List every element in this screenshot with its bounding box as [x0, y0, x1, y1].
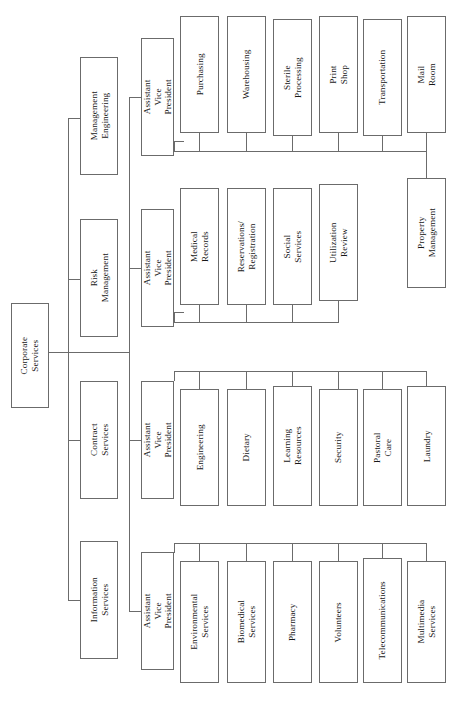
- node-label: Security: [333, 432, 344, 463]
- node-laundry[interactable]: Laundry: [407, 386, 446, 506]
- connector-root-to-avp-stub: [68, 352, 129, 353]
- node-label: Volunteers: [333, 602, 344, 642]
- connector-group2-leaf-stub-3: [292, 305, 293, 323]
- node-dietary[interactable]: Dietary: [227, 389, 266, 506]
- connector-group3-leaf-stub-5: [382, 371, 383, 389]
- node-label: Dietary: [241, 433, 252, 461]
- node-label: Telecommunications: [377, 581, 388, 659]
- connector-group2-leaf-stub-1: [199, 305, 200, 323]
- node-learning-resources[interactable]: Learning Resources: [273, 386, 312, 506]
- node-assistant-vice-president-2[interactable]: Assistant Vice President: [141, 209, 174, 327]
- node-assistant-vice-president-1[interactable]: Assistant Vice President: [141, 38, 174, 156]
- connector-group4-leaf-stub-1: [199, 543, 200, 561]
- node-label: Utilization Review: [328, 222, 349, 262]
- connector-group2-leaf-stub-2: [246, 305, 247, 323]
- connector-group4-leaf-stub-5: [382, 543, 383, 558]
- node-assistant-vice-president-4[interactable]: Assistant Vice President: [141, 552, 174, 670]
- connector-group1-leaf-stub-3: [292, 136, 293, 152]
- connector-tier2-bus: [68, 118, 69, 600]
- node-label: Purchasing: [194, 54, 205, 96]
- node-label: Engineering: [194, 424, 205, 470]
- node-label: Management Engineering: [88, 92, 109, 141]
- node-pastoral-care[interactable]: Pastoral Care: [363, 389, 402, 506]
- connector-avp-stub-3: [129, 440, 141, 441]
- node-label: Corporate Services: [19, 337, 40, 375]
- node-security[interactable]: Security: [319, 389, 358, 506]
- connector-group4-leaf-stub-2: [246, 543, 247, 561]
- connector-group1-avp-out: [174, 141, 184, 142]
- node-reservations-registration[interactable]: Reservations/ Registration: [227, 188, 266, 305]
- connector-group4-leaf-stub-4: [338, 543, 339, 561]
- node-label: Transportation: [377, 50, 388, 105]
- node-label: Risk Management: [88, 254, 109, 303]
- node-information-services[interactable]: Information Services: [80, 541, 118, 659]
- connector-avp-bus: [129, 97, 130, 611]
- connector-group3-leaf-stub-3: [292, 371, 293, 386]
- node-label: Property Management: [416, 209, 437, 258]
- node-label: Social Services: [282, 228, 303, 265]
- node-medical-records[interactable]: Medical Records: [180, 188, 219, 305]
- connector-group1-leaf-stub-2: [246, 133, 247, 152]
- connector-group4-riser: [174, 543, 175, 553]
- connector-group4-leaf-stub-6: [426, 543, 427, 561]
- node-label: Environmental Services: [189, 594, 210, 650]
- node-environmental-services[interactable]: Environmental Services: [180, 561, 219, 683]
- node-assistant-vice-president-3[interactable]: Assistant Vice President: [141, 381, 174, 499]
- node-label: Warehousing: [241, 50, 252, 99]
- org-chart-canvas: Corporate Services Management Engineerin…: [0, 0, 463, 704]
- connector-avp-stub-2: [129, 268, 141, 269]
- node-label: Assistant Vice President: [141, 250, 173, 285]
- node-label: Medical Records: [189, 228, 210, 265]
- node-label: Pastoral Care: [372, 429, 393, 466]
- node-telecommunications[interactable]: Telecommunications: [363, 558, 402, 683]
- node-label: Print Shop: [328, 56, 349, 93]
- node-transportation[interactable]: Transportation: [363, 19, 402, 136]
- connector-property-management-drop: [426, 151, 427, 178]
- connector-root-stub: [49, 352, 68, 353]
- connector-group3-leaf-stub-2: [246, 371, 247, 389]
- node-label: Assistant Vice President: [141, 593, 173, 628]
- node-corporate-services[interactable]: Corporate Services: [11, 303, 49, 408]
- connector-group2-avp-out: [174, 312, 184, 313]
- node-biomedical-services[interactable]: Biomedical Services: [227, 561, 266, 683]
- node-label: Information Services: [88, 578, 109, 623]
- node-warehousing[interactable]: Warehousing: [227, 16, 266, 133]
- node-property-management[interactable]: Property Management: [407, 178, 446, 288]
- node-social-services[interactable]: Social Services: [273, 188, 312, 305]
- connector-tier2-stub-4: [68, 600, 80, 601]
- node-label: Sterile Processing: [282, 57, 303, 98]
- node-label: Assistant Vice President: [141, 422, 173, 457]
- connector-group1-leaf-stub-6: [426, 133, 427, 152]
- node-label: Reservations/ Registration: [236, 221, 257, 272]
- node-label: Contract Services: [88, 424, 109, 456]
- node-engineering[interactable]: Engineering: [180, 389, 219, 506]
- node-contract-services[interactable]: Contract Services: [80, 381, 118, 499]
- connector-group4-leaf-stub-3: [292, 543, 293, 561]
- node-management-engineering[interactable]: Management Engineering: [80, 57, 118, 175]
- node-pharmacy[interactable]: Pharmacy: [273, 561, 312, 683]
- node-label: Learning Resources: [282, 427, 303, 466]
- node-print-shop[interactable]: Print Shop: [319, 16, 358, 133]
- node-label: Laundry: [421, 430, 432, 462]
- connector-group3-leaf-stub-6: [426, 371, 427, 386]
- node-label: Multimedia Services: [416, 600, 437, 644]
- connector-tier2-stub-2: [68, 279, 80, 280]
- node-risk-management[interactable]: Risk Management: [80, 219, 118, 337]
- node-label: Pharmacy: [287, 603, 298, 641]
- node-purchasing[interactable]: Purchasing: [180, 16, 219, 133]
- connector-tier2-stub-1: [68, 118, 80, 119]
- node-label: Biomedical Services: [236, 600, 257, 643]
- node-multimedia-services[interactable]: Multimedia Services: [407, 561, 446, 683]
- connector-group1-bus: [174, 151, 427, 152]
- node-utilization-review[interactable]: Utilization Review: [319, 184, 358, 301]
- connector-tier2-stub-3: [68, 440, 80, 441]
- node-label: Assistant Vice President: [141, 79, 173, 114]
- connector-group3-riser: [174, 371, 175, 381]
- connector-group2-leaf-stub-4: [338, 300, 339, 323]
- node-mail-room[interactable]: Mail Room: [407, 16, 446, 133]
- connector-avp-stub-1: [129, 97, 141, 98]
- node-volunteers[interactable]: Volunteers: [319, 561, 358, 683]
- node-sterile-processing[interactable]: Sterile Processing: [273, 19, 312, 136]
- node-label: Mail Room: [416, 56, 437, 93]
- connector-group1-leaf-stub-1: [199, 133, 200, 152]
